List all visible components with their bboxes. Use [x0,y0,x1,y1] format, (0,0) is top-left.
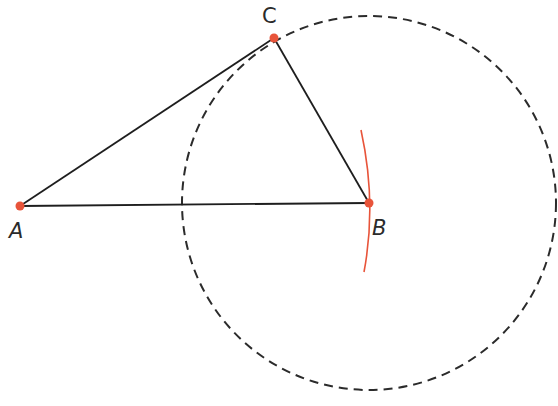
point-b [365,199,374,208]
segment-ab [20,203,369,206]
segment-ca [20,38,274,206]
point-c [270,34,279,43]
label-a: A [7,219,23,243]
geometry-diagram: A B C [0,0,558,406]
label-b: B [372,216,386,240]
segment-bc [274,38,369,203]
label-c: C [262,4,277,28]
point-a [16,202,25,211]
